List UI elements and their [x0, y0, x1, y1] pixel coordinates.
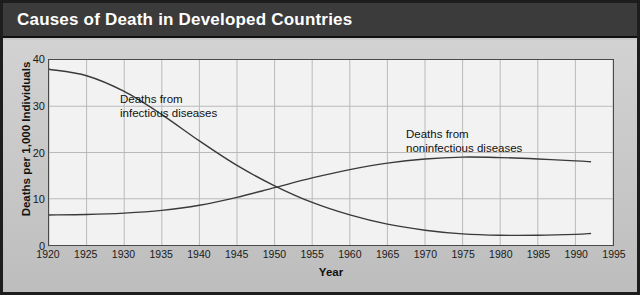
annotation-noninfectious-diseases: Deaths from noninfectious diseases [406, 127, 522, 155]
x-axis-tick-label: 1990 [565, 248, 588, 260]
plot-inner [49, 60, 613, 245]
x-axis-tick-label: 1920 [36, 248, 59, 260]
y-axis-tick-label: 10 [33, 193, 45, 205]
x-axis-tick-label: 1935 [150, 248, 173, 260]
x-axis-tick-label: 1965 [376, 248, 399, 260]
chart-panel: Deaths per 1,000 Individuals 403020100 1… [3, 40, 637, 292]
x-axis-tick-label: 1925 [74, 248, 97, 260]
annotation-noninfectious-line2: noninfectious diseases [406, 141, 522, 155]
x-axis-tick-label: 1995 [602, 248, 625, 260]
page-title: Causes of Death in Developed Countries [17, 10, 352, 30]
annotation-noninfectious-line1: Deaths from [406, 127, 522, 141]
y-axis-tick-label: 30 [33, 100, 45, 112]
x-axis-tick-label: 1945 [225, 248, 248, 260]
x-axis-tick-label: 1985 [527, 248, 550, 260]
x-axis-tick-label: 1970 [414, 248, 437, 260]
x-axis-tick-label: 1950 [263, 248, 286, 260]
annotation-infectious-line1: Deaths from [120, 92, 217, 106]
annotation-infectious-diseases: Deaths from infectious diseases [120, 92, 217, 120]
annotation-infectious-line2: infectious diseases [120, 106, 217, 120]
y-axis-tick-label: 20 [33, 147, 45, 159]
x-axis-tick-label: 1980 [489, 248, 512, 260]
data-curves [49, 60, 613, 245]
y-axis-tick-label: 40 [33, 53, 45, 65]
plot-area [48, 59, 614, 246]
x-axis-tick-label: 1975 [451, 248, 474, 260]
x-axis-tick-label: 1955 [300, 248, 323, 260]
x-axis-tick-label: 1940 [187, 248, 210, 260]
y-axis-tick-labels: 403020100 [12, 59, 45, 246]
figure-container: Causes of Death in Developed Countries D… [0, 0, 640, 295]
title-bar: Causes of Death in Developed Countries [3, 3, 637, 38]
x-axis-title: Year [48, 266, 614, 278]
x-axis-tick-labels: 1920192519301935194019451950195519601965… [48, 248, 614, 264]
x-axis-tick-label: 1930 [112, 248, 135, 260]
x-axis-tick-label: 1960 [338, 248, 361, 260]
